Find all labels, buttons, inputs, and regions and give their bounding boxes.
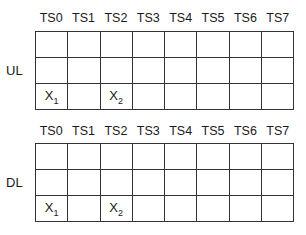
timeslot-header: TS0 TS1 TS2 TS3 TS4 TS5 TS6 TS7 [35,124,294,138]
timeslot-label: TS6 [229,124,261,138]
cell-x2: X2 [100,84,132,110]
timeslot-label: TS0 [35,124,67,138]
timeslot-label: TS4 [165,11,197,25]
timeslot-label: TS2 [100,124,132,138]
grid-row [36,144,294,170]
timeslot-label: TS3 [132,11,164,25]
timeslot-grid: X1 X2 [35,31,294,110]
grid-row: X1 X2 [36,84,294,110]
frame-label: DL [6,175,23,190]
cell-x1: X1 [36,196,68,222]
timeslot-grid: X1 X2 [35,143,294,222]
frame-label: UL [6,63,23,78]
timeslot-label: TS1 [67,124,99,138]
timeslot-label: TS4 [165,124,197,138]
timeslot-label: TS7 [262,11,294,25]
timeslot-label: TS0 [35,11,67,25]
cell-x2: X2 [100,196,132,222]
grid-row [36,58,294,84]
grid-row [36,170,294,196]
timeslot-label: TS3 [132,124,164,138]
timeslot-label: TS6 [229,11,261,25]
timeslot-label: TS1 [67,11,99,25]
grid-row: X1 X2 [36,196,294,222]
grid-row [36,32,294,58]
timeslot-label: TS5 [197,124,229,138]
timeslot-label: TS5 [197,11,229,25]
timeslot-label: TS7 [262,124,294,138]
cell-x1: X1 [36,84,68,110]
timeslot-header: TS0 TS1 TS2 TS3 TS4 TS5 TS6 TS7 [35,11,294,25]
timeslot-label: TS2 [100,11,132,25]
